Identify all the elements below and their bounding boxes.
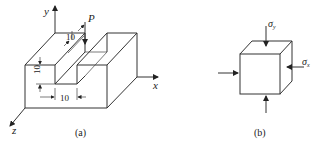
load-label: P	[87, 12, 95, 24]
caption-b: (b)	[254, 127, 266, 139]
dim-slot-width: 10	[40, 88, 86, 103]
x-axis-label: x	[152, 79, 158, 91]
dim-slot-depth: 10	[32, 57, 55, 92]
z-axis-label: z	[11, 124, 17, 136]
stress-arrows	[218, 26, 304, 113]
svg-text:10: 10	[32, 65, 42, 75]
stress-x-label: σx	[302, 56, 310, 68]
svg-text:10: 10	[60, 93, 70, 103]
caption-a: (a)	[75, 127, 86, 139]
stress-y-label: σy	[268, 18, 276, 30]
y-axis-label: y	[43, 5, 49, 17]
figure-b-cube	[240, 41, 292, 94]
diagram-canvas: y x z P 10 10 10 (a) σy σx	[0, 0, 320, 152]
dim-load-width: 10	[66, 32, 76, 42]
